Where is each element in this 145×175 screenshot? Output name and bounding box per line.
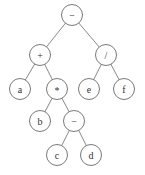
node-minus: − [64, 111, 85, 132]
node-a: a [10, 79, 31, 100]
node-b: b [30, 111, 51, 132]
node-label: / [105, 50, 108, 61]
node-plus: + [30, 45, 51, 66]
node-label: e [87, 84, 92, 95]
node-label: − [71, 116, 77, 127]
node-c: c [47, 145, 68, 166]
node-label: b [38, 116, 43, 127]
node-label: + [37, 50, 43, 61]
node-label: c [55, 150, 60, 161]
node-f: f [114, 79, 135, 100]
node-d: d [81, 145, 102, 166]
node-label: d [89, 150, 94, 161]
expression-tree-diagram: − + / a * e f b [0, 0, 145, 175]
node-label: − [69, 10, 75, 21]
node-label: a [18, 84, 23, 95]
edges [20, 15, 124, 155]
node-label: * [55, 85, 60, 96]
nodes: − + / a * e f b [10, 5, 135, 166]
node-divide: / [96, 45, 117, 66]
node-multiply: * [47, 79, 68, 100]
node-e: e [79, 79, 100, 100]
node-root-minus: − [62, 5, 83, 26]
